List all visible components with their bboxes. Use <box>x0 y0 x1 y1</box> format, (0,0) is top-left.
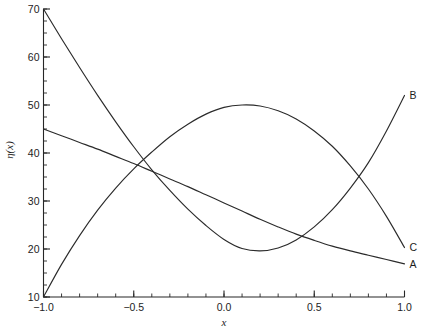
curve-a <box>44 129 405 264</box>
x-axis-title: x <box>221 316 227 328</box>
x-axis-tick-labels: −1.0−0.50.00.51.0 <box>33 301 412 313</box>
line-chart-canvas: 10203040506070 −1.0−0.50.00.51.0 BCA x η… <box>0 0 421 332</box>
chart-figure: 10203040506070 −1.0−0.50.00.51.0 BCA x η… <box>0 0 421 332</box>
data-curves <box>44 9 405 297</box>
curve-end-labels: BCA <box>410 89 418 269</box>
x-tick-label: 0.5 <box>307 301 322 313</box>
y-axis-tick-labels: 10203040506070 <box>28 3 40 303</box>
x-tick-label: 0.0 <box>217 301 232 313</box>
x-tick-label: −1.0 <box>33 301 54 313</box>
y-tick-label: 20 <box>28 243 40 255</box>
curve-label-b: B <box>410 89 417 101</box>
y-tick-label: 70 <box>28 3 40 15</box>
y-tick-label: 30 <box>28 195 40 207</box>
y-tick-label: 60 <box>28 51 40 63</box>
y-tick-label: 50 <box>28 99 40 111</box>
curve-label-c: C <box>410 241 418 253</box>
x-tick-label: 1.0 <box>397 301 412 313</box>
curve-b <box>44 9 405 251</box>
y-axis-major-ticks <box>44 9 51 297</box>
curve-c <box>44 105 405 297</box>
y-axis-title: η(x) <box>3 141 16 159</box>
curve-label-a: A <box>410 258 417 270</box>
x-tick-label: −0.5 <box>123 301 144 313</box>
y-tick-label: 40 <box>28 147 40 159</box>
